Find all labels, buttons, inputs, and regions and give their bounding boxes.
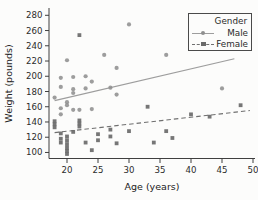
scatter-point-male <box>108 86 112 90</box>
scatter-point-female <box>65 135 69 139</box>
female-square-marker-icon <box>201 42 206 47</box>
x-tick-label: 50 <box>248 165 258 175</box>
x-tick-label: 35 <box>155 165 166 175</box>
scatter-point-female <box>115 141 119 145</box>
scatter-point-male <box>84 74 88 78</box>
y-tick-label: 100 <box>26 147 42 157</box>
y-tick-label: 160 <box>26 102 42 112</box>
scatter-point-male <box>115 92 119 96</box>
scatter-point-female <box>65 146 69 150</box>
x-tick-label: 40 <box>186 165 197 175</box>
y-tick-label: 240 <box>26 41 42 51</box>
scatter-point-male <box>115 66 119 70</box>
scatter-point-male <box>127 22 131 26</box>
scatter-point-female <box>90 148 94 152</box>
legend-sample-female <box>191 41 215 48</box>
scatter-point-female <box>78 119 82 123</box>
scatter-point-female <box>59 141 63 145</box>
scatter-point-female <box>71 130 75 134</box>
x-tick-label: 25 <box>93 165 104 175</box>
scatter-point-male <box>59 85 63 89</box>
scatter-point-female <box>53 119 57 123</box>
scatter-point-female <box>65 138 69 142</box>
y-tick-label: 140 <box>26 117 42 127</box>
scatter-point-female <box>59 132 63 136</box>
scatter-point-female <box>59 137 63 141</box>
legend-sample-male <box>191 30 215 37</box>
female-trend-line <box>55 111 250 133</box>
male-circle-marker-icon <box>201 31 205 35</box>
scatter-plot-figure: 1001201401601802002202402602802025303540… <box>0 0 258 200</box>
scatter-point-female <box>189 112 193 116</box>
scatter-point-male <box>59 112 63 116</box>
scatter-point-female <box>65 142 69 146</box>
scatter-point-female <box>152 141 156 145</box>
x-axis-label: Age (years) <box>49 181 255 192</box>
legend-label-female: Female <box>215 40 248 49</box>
y-tick-label: 120 <box>26 132 42 142</box>
scatter-point-male <box>71 75 75 79</box>
y-tick-label: 260 <box>26 26 42 36</box>
scatter-point-female <box>171 136 175 140</box>
scatter-point-male <box>77 108 81 112</box>
y-tick-label: 200 <box>26 71 42 81</box>
scatter-point-female <box>96 132 100 136</box>
scatter-point-female <box>164 129 168 133</box>
scatter-point-male <box>102 53 106 57</box>
scatter-point-male <box>84 86 88 90</box>
x-tick-label: 30 <box>124 165 135 175</box>
scatter-point-female <box>146 105 150 109</box>
scatter-point-male <box>71 91 75 95</box>
scatter-point-female <box>239 103 243 107</box>
scatter-point-female <box>78 33 82 37</box>
y-tick-label: 220 <box>26 56 42 66</box>
scatter-point-male <box>53 95 57 99</box>
scatter-point-female <box>208 115 212 119</box>
male-trend-line <box>55 59 235 101</box>
y-tick-label: 280 <box>26 10 42 20</box>
legend-entry-female: Female <box>191 39 248 50</box>
scatter-point-female <box>84 141 88 145</box>
scatter-point-female <box>109 128 113 132</box>
legend-title: Gender <box>191 16 248 28</box>
scatter-point-male <box>59 106 63 110</box>
scatter-point-male <box>71 87 75 91</box>
y-tick-label: 180 <box>26 87 42 97</box>
scatter-point-male <box>164 53 168 57</box>
y-axis-label: Weight (pounds) <box>3 14 14 154</box>
scatter-point-female <box>127 129 131 133</box>
legend-box: Gender Male Female <box>188 13 252 51</box>
scatter-point-male <box>220 86 224 90</box>
scatter-point-male <box>65 58 69 62</box>
x-tick-label: 45 <box>217 165 228 175</box>
legend-entry-male: Male <box>191 28 248 39</box>
scatter-point-male <box>71 108 75 112</box>
scatter-point-male <box>90 107 94 111</box>
scatter-point-male <box>65 100 69 104</box>
legend-label-male: Male <box>215 29 248 38</box>
x-tick-label: 20 <box>62 165 73 175</box>
scatter-point-female <box>109 135 113 139</box>
scatter-point-female <box>96 138 100 142</box>
scatter-point-male <box>59 76 63 80</box>
scatter-point-male <box>90 79 94 83</box>
